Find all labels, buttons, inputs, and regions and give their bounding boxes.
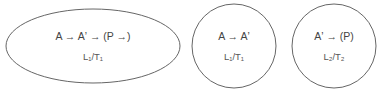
node-1-ellipse [6,9,180,83]
node-2-expression: A → Aʼ [194,30,274,42]
node-3-condition: L₂/T₂ [304,51,364,62]
node-1-expression: A → Aʼ → (P →) [33,30,153,42]
node-2-condition: L₁/T₁ [204,51,264,62]
node-2-circle [192,4,276,88]
node-1-condition: L₁/T₁ [63,51,123,62]
node-3-circle [292,4,376,88]
node-3-expression: Aʼ → (P) [294,30,374,42]
diagram-canvas [0,0,380,92]
